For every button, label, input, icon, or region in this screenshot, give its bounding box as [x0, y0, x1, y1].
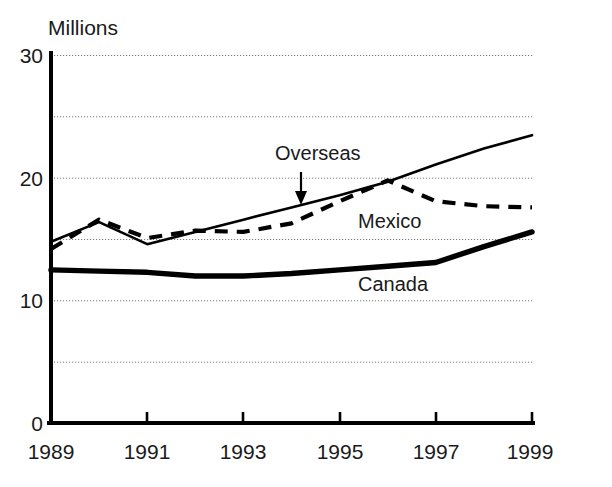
line-chart: Millions 30 20 10 0 1989 1991 1993 1995 …: [0, 0, 612, 487]
y-tick-labels: 30 20 10 0: [20, 44, 43, 435]
chart-canvas: Millions 30 20 10 0 1989 1991 1993 1995 …: [0, 0, 612, 487]
gridlines: [51, 56, 533, 363]
x-tick-labels: 1989 1991 1993 1995 1997 1999: [28, 440, 554, 463]
overseas-label: Overseas: [275, 142, 361, 164]
series-line-canada: [51, 232, 532, 276]
y-tick-label-30: 30: [20, 44, 43, 67]
y-axis-title: Millions: [48, 16, 118, 39]
x-tick-label-1995: 1995: [317, 440, 364, 463]
canada-label: Canada: [358, 273, 429, 295]
x-tick-label-1991: 1991: [124, 440, 171, 463]
mexico-label: Mexico: [358, 210, 421, 232]
axes: [49, 53, 533, 423]
y-tick-label-0: 0: [31, 412, 43, 435]
x-tick-label-1993: 1993: [220, 440, 267, 463]
x-tick-label-1997: 1997: [413, 440, 460, 463]
series-line-mexico: [51, 180, 532, 249]
y-tick-label-20: 20: [20, 167, 43, 190]
x-tick-label-1999: 1999: [507, 440, 554, 463]
y-tick-label-10: 10: [20, 289, 43, 312]
x-tick-label-1989: 1989: [28, 440, 75, 463]
